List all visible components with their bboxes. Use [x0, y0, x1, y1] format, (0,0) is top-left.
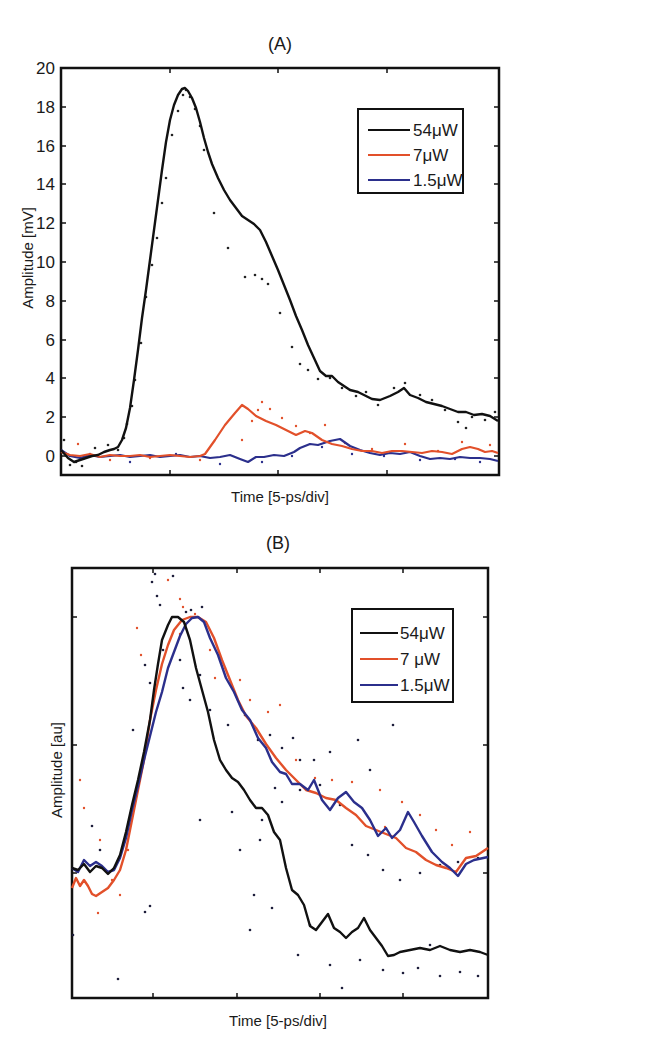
y-tick-label: 18 — [36, 98, 55, 117]
legend-label: 7 μW — [400, 650, 440, 669]
y-tick-label: 0 — [46, 447, 55, 466]
panel-b-title: (B) — [266, 533, 290, 553]
panel-a-x-axis-label: Time [5-ps/div] — [231, 488, 329, 505]
legend-label: 7μW — [413, 146, 448, 165]
y-tick-label: 8 — [46, 292, 55, 311]
legend-label: 1.5μW — [413, 171, 462, 190]
legend-label: 54μW — [413, 121, 458, 140]
panel-b: (B) Time [5-ps/div] Amplitude [au] — [48, 533, 488, 1029]
panel-a-y-axis-label: Amplitude [mV] — [19, 207, 36, 309]
figure: (A) 20 18 16 14 12 10 8 — [0, 0, 670, 1062]
panel-b-y-axis-label: Amplitude [au] — [48, 722, 65, 818]
y-tick-label: 12 — [36, 214, 55, 233]
legend-label: 1.5μW — [400, 676, 449, 695]
y-tick-label: 14 — [36, 175, 55, 194]
panel-b-x-axis-label: Time [5-ps/div] — [229, 1012, 327, 1029]
y-tick-label: 20 — [36, 59, 55, 78]
y-tick-label: 6 — [46, 331, 55, 350]
y-tick-label: 4 — [46, 369, 55, 388]
panel-a-trace-7uw — [61, 405, 498, 457]
y-tick-label: 16 — [36, 137, 55, 156]
panel-a-title: (A) — [268, 34, 292, 54]
y-tick-label: 10 — [36, 253, 55, 272]
legend-label: 54μW — [400, 624, 445, 643]
panel-b-legend: 54μW 7 μW 1.5μW — [352, 609, 453, 702]
panel-a: (A) 20 18 16 14 12 10 8 — [19, 34, 499, 505]
y-tick-label: 2 — [46, 408, 55, 427]
panel-a-legend: 54μW 7μW 1.5μW — [358, 109, 463, 193]
